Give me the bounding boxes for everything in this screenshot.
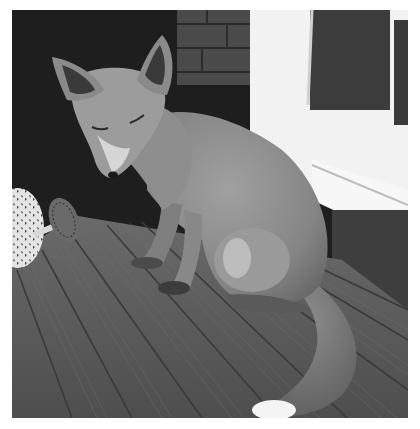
fox-scene [12,10,408,418]
fox-photo: Black and white photo of a young fox sit… [12,10,408,418]
fox-nose [108,172,118,179]
brick-wall [177,10,252,85]
